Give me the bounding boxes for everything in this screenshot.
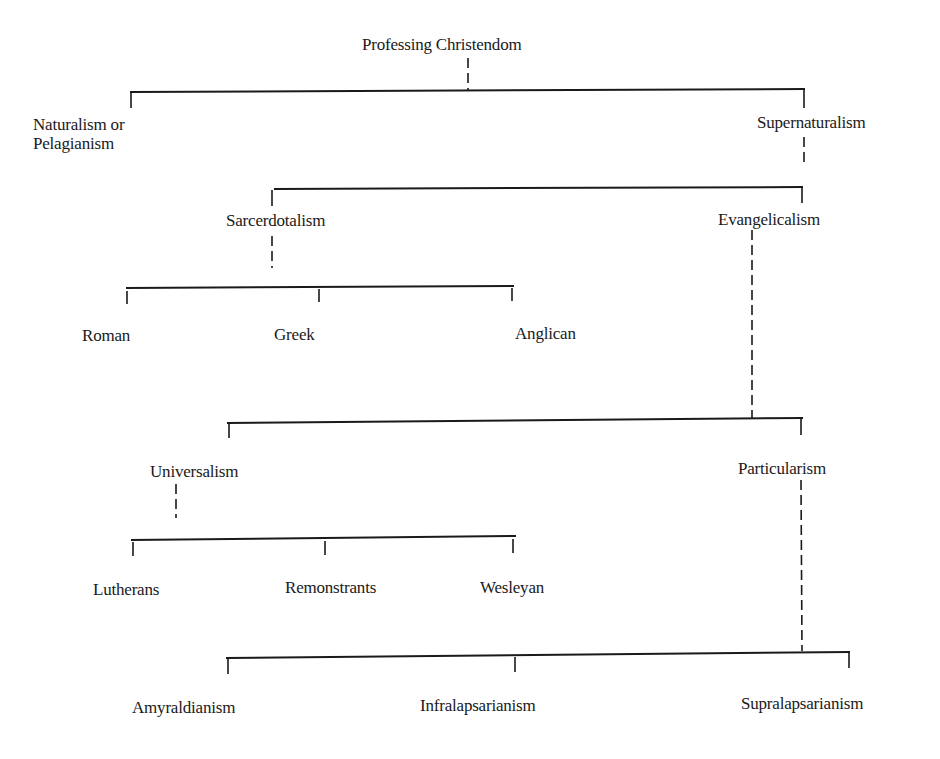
node-greek: Greek	[274, 325, 315, 344]
sacerdotalism-bar	[126, 286, 514, 288]
node-universalism: Universalism	[150, 462, 238, 481]
node-infralapsarianism: Infralapsarianism	[420, 696, 536, 715]
node-supernaturalism: Supernaturalism	[757, 113, 865, 132]
node-amyraldianism: Amyraldianism	[132, 698, 235, 717]
node-remonstrants: Remonstrants	[285, 578, 376, 597]
node-professing-christendom: Professing Christendom	[362, 35, 521, 54]
node-naturalism-line1: Naturalism or	[33, 115, 124, 134]
node-particularism: Particularism	[738, 459, 826, 478]
node-naturalism-line2: Pelagianism	[33, 134, 124, 153]
universalism-bar	[131, 536, 516, 540]
particularism-bar	[226, 652, 850, 658]
node-evangelicalism: Evangelicalism	[718, 210, 820, 229]
supernaturalism-bar	[274, 187, 803, 189]
particularism-stem	[801, 480, 802, 651]
node-naturalism: Naturalism or Pelagianism	[33, 115, 124, 153]
node-anglican: Anglican	[515, 324, 576, 343]
evangelicalism-bar	[227, 418, 803, 423]
node-sacerdotalism: Sarcerdotalism	[226, 211, 325, 230]
node-wesleyan: Wesleyan	[480, 578, 544, 597]
node-supralapsarianism: Supralapsarianism	[741, 694, 863, 713]
node-roman: Roman	[82, 326, 130, 345]
node-lutherans: Lutherans	[93, 580, 159, 599]
